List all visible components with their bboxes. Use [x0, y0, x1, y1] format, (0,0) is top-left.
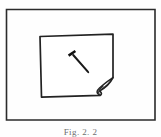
paper-sheet	[40, 34, 113, 97]
figure-caption: Fig. 2. 2	[0, 128, 161, 137]
figure-illustration: Fig. 2. 2	[0, 0, 161, 137]
drawing-canvas	[0, 0, 161, 137]
